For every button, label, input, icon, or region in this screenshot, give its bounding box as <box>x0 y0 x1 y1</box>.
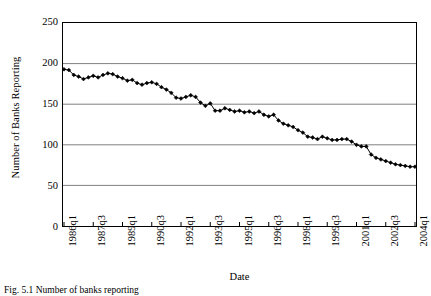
x-tick-label: 1999q3 <box>330 215 341 269</box>
plot-area <box>62 22 417 227</box>
data-point-marker <box>286 123 290 127</box>
data-point-marker <box>398 163 402 167</box>
data-point-marker <box>91 74 95 78</box>
x-tick-label: 2002q3 <box>389 215 400 269</box>
data-point-marker <box>316 137 320 141</box>
data-point-marker <box>325 136 329 140</box>
y-tick-label: 150 <box>24 99 58 109</box>
data-point-marker <box>184 95 188 99</box>
y-tick-label: 50 <box>24 181 58 191</box>
data-point-marker <box>150 80 154 84</box>
data-point-marker <box>77 75 81 79</box>
y-axis-title: Number of Banks Reporting <box>10 18 21 218</box>
data-point-marker <box>408 165 412 169</box>
data-point-marker <box>394 162 398 166</box>
x-tick-label: 1992q1 <box>184 215 195 269</box>
x-tick-label: 1993q3 <box>213 215 224 269</box>
series-line <box>64 69 415 166</box>
data-point-marker <box>228 108 232 112</box>
data-point-marker <box>125 79 129 83</box>
data-point-marker <box>116 75 120 79</box>
data-point-marker <box>389 161 393 165</box>
data-point-marker <box>379 158 383 162</box>
data-point-marker <box>252 111 256 115</box>
y-tick-label: 250 <box>24 17 58 27</box>
data-point-marker <box>320 135 324 139</box>
data-point-marker <box>340 137 344 141</box>
data-point-marker <box>145 81 149 85</box>
data-point-marker <box>335 138 339 142</box>
data-point-marker <box>63 67 66 71</box>
data-point-marker <box>311 136 315 140</box>
data-point-marker <box>247 110 251 114</box>
y-tick-label: 200 <box>24 58 58 68</box>
x-tick-label: 1996q3 <box>272 215 283 269</box>
data-point-marker <box>345 137 349 141</box>
data-point-marker <box>140 83 144 87</box>
data-point-marker <box>233 110 237 114</box>
data-point-marker <box>218 109 222 113</box>
x-tick-label: 1990q3 <box>155 215 166 269</box>
x-tick-label: 2001q1 <box>360 215 371 269</box>
data-point-marker <box>330 138 334 142</box>
data-point-marker <box>101 73 105 77</box>
x-tick-label: 1987q3 <box>96 215 107 269</box>
y-tick-label: 0 <box>24 222 58 232</box>
x-tick-label: 1989q1 <box>126 215 137 269</box>
data-point-marker <box>267 114 271 118</box>
x-tick-label: 1995q1 <box>243 215 254 269</box>
data-point-marker <box>179 97 183 101</box>
data-point-marker <box>189 93 193 97</box>
data-point-marker <box>111 72 115 76</box>
data-point-marker <box>106 71 110 75</box>
data-point-marker <box>403 164 407 168</box>
data-point-marker <box>121 76 125 80</box>
y-axis-tick-labels: 250200150100500 <box>22 0 58 293</box>
x-tick-label: 2004q1 <box>418 215 429 269</box>
data-point-marker <box>82 77 86 81</box>
figure-caption: Fig. 5.1 Number of banks reporting <box>4 285 424 296</box>
data-point-marker <box>86 76 90 80</box>
data-point-marker <box>242 110 246 114</box>
data-point-marker <box>223 106 227 110</box>
data-point-marker <box>413 165 416 169</box>
data-point-marker <box>96 76 100 80</box>
data-point-marker <box>238 109 242 113</box>
y-tick-label: 100 <box>24 140 58 150</box>
series-plot <box>63 23 416 226</box>
x-axis-title: Date <box>62 271 417 282</box>
data-point-marker <box>384 159 388 163</box>
x-tick-label: 1998q1 <box>301 215 312 269</box>
x-tick-label: 1986q1 <box>67 215 78 269</box>
